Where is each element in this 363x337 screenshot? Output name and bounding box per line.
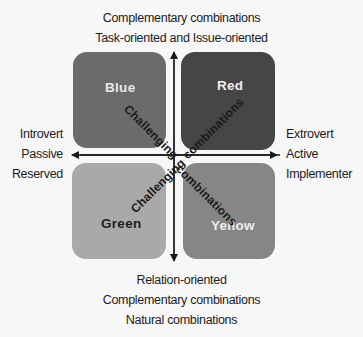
right-label-line: Implementer — [286, 164, 352, 184]
right-axis-label: Extrovert Active Implementer — [286, 124, 352, 184]
bottom-label-line: Natural combinations — [0, 310, 363, 330]
right-label-line: Extrovert — [286, 124, 352, 144]
right-label-line: Active — [286, 144, 352, 164]
left-label-line: Introvert — [12, 124, 63, 144]
bottom-label-line: Complementary combinations — [0, 290, 363, 310]
left-label-line: Reserved — [12, 164, 63, 184]
bottom-axis-label: Relation-oriented Complementary combinat… — [0, 270, 363, 330]
bottom-label-line: Relation-oriented — [0, 270, 363, 290]
left-axis-label: Introvert Passive Reserved — [12, 124, 63, 184]
left-label-line: Passive — [12, 144, 63, 164]
